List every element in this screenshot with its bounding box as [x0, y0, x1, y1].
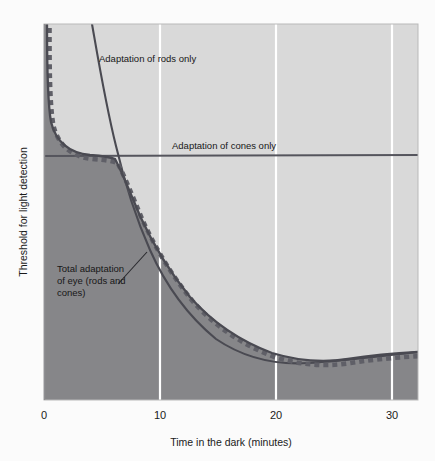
annotation-cones-only-label: Adaptation of cones only [172, 140, 276, 151]
x-tick-label-30: 30 [386, 409, 398, 421]
x-axis-title: Time in the dark (minutes) [170, 436, 292, 448]
dark-adaptation-chart-figure: Adaptation of rods only Adaptation of co… [0, 0, 435, 461]
plot-panel [44, 24, 421, 400]
x-tick-label-20: 20 [270, 409, 282, 421]
x-tick-label-10: 10 [154, 409, 166, 421]
annotation-total-adaptation-line1: Total adaptation [57, 263, 124, 274]
annotation-rods-only-label: Adaptation of rods only [99, 53, 196, 64]
x-tick-label-0: 0 [41, 409, 47, 421]
chart-canvas: Adaptation of rods only Adaptation of co… [0, 0, 435, 461]
annotation-total-adaptation-line2: of eye (rods and [57, 275, 126, 286]
annotation-total-adaptation-line3: cones) [57, 287, 86, 298]
y-axis-title: Threshold for light detection [17, 147, 29, 277]
